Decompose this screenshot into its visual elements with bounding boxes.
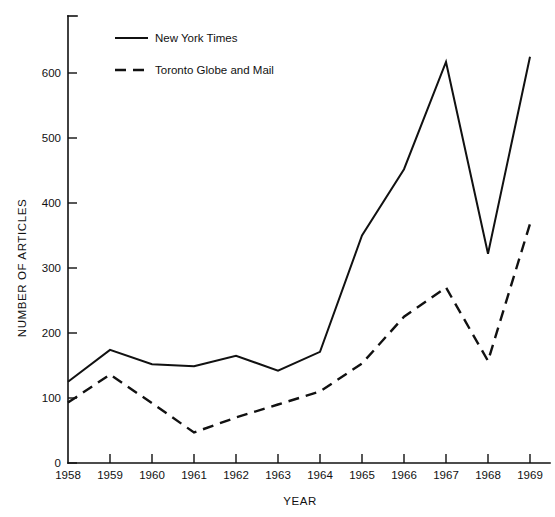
series-line-new-york-times — [68, 57, 530, 382]
series-layer — [68, 57, 530, 433]
y-axis-title: NUMBER OF ARTICLES — [16, 199, 28, 337]
x-axis-ticks: 1958195919601961196219631964196519661967… — [55, 454, 543, 481]
x-tick-label: 1966 — [391, 469, 417, 481]
line-chart-figure: 0100200300400500600 19581959196019611962… — [0, 0, 555, 517]
y-tick-label: 0 — [55, 457, 61, 469]
y-tick-label: 400 — [42, 197, 61, 209]
x-tick-label: 1965 — [349, 469, 375, 481]
y-axis-ticks: 0100200300400500600 — [42, 67, 77, 469]
x-tick-label: 1958 — [55, 469, 81, 481]
x-tick-label: 1960 — [139, 469, 165, 481]
x-tick-label: 1963 — [265, 469, 291, 481]
x-tick-label: 1968 — [475, 469, 501, 481]
series-line-toronto-globe-and-mail — [68, 224, 530, 433]
legend-label-new-york-times: New York Times — [155, 32, 238, 44]
x-tick-label: 1962 — [223, 469, 249, 481]
x-tick-label: 1959 — [97, 469, 123, 481]
legend-label-toronto-globe-and-mail: Toronto Globe and Mail — [155, 64, 274, 76]
y-tick-label: 500 — [42, 132, 61, 144]
y-tick-label: 200 — [42, 327, 61, 339]
x-axis-title: YEAR — [283, 495, 317, 507]
y-tick-label: 300 — [42, 262, 61, 274]
x-tick-label: 1961 — [181, 469, 207, 481]
y-tick-label: 100 — [42, 392, 61, 404]
y-tick-label: 600 — [42, 67, 61, 79]
chart-legend: New York TimesToronto Globe and Mail — [115, 32, 274, 76]
x-tick-label: 1964 — [307, 469, 333, 481]
x-tick-label: 1967 — [433, 469, 459, 481]
chart-container: 0100200300400500600 19581959196019611962… — [0, 0, 555, 517]
x-tick-label: 1969 — [517, 469, 543, 481]
